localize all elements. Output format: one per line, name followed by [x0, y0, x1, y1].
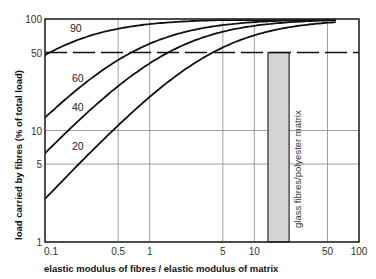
curve-90	[45, 20, 336, 55]
curve-label-20: 20	[72, 140, 84, 152]
curve-label-90: 90	[70, 22, 82, 34]
curve-label-40: 40	[72, 101, 84, 113]
y-axis-ticks: 151050100	[25, 14, 42, 248]
svg-text:10: 10	[249, 246, 261, 257]
svg-text:50: 50	[31, 48, 43, 59]
glass-polyester-band	[268, 53, 289, 242]
svg-text:1: 1	[147, 246, 153, 257]
chart: 0.10.5151050100 151050100 90 60 40 20 gl…	[0, 0, 376, 279]
curve-60	[45, 20, 336, 117]
band-label: glass fibres/polyester matrix	[292, 110, 303, 228]
svg-text:50: 50	[322, 246, 334, 257]
x-axis-title: elastic modulus of fibres / elastic modu…	[44, 263, 279, 274]
svg-text:5: 5	[220, 246, 226, 257]
svg-text:0.1: 0.1	[44, 246, 58, 257]
svg-text:1: 1	[36, 237, 42, 248]
svg-text:5: 5	[36, 159, 42, 170]
svg-text:0.5: 0.5	[111, 246, 125, 257]
svg-text:100: 100	[25, 14, 42, 25]
y-axis-title: load carried by fibres (% of total load)	[13, 70, 24, 240]
curve-label-60: 60	[72, 72, 84, 84]
svg-text:10: 10	[31, 126, 43, 137]
x-axis-ticks: 0.10.5151050100	[44, 246, 368, 257]
svg-text:100: 100	[351, 246, 368, 257]
